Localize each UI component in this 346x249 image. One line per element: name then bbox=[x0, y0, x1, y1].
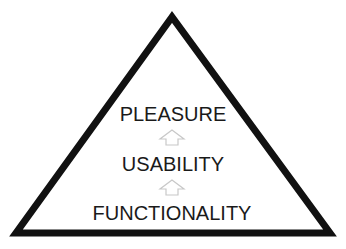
up-arrow-icon bbox=[160, 180, 184, 195]
level-pleasure: PLEASURE bbox=[120, 103, 227, 125]
pyramid-diagram: PLEASURE USABILITY FUNCTIONALITY bbox=[0, 0, 346, 249]
up-arrow-icon bbox=[160, 130, 184, 145]
level-functionality: FUNCTIONALITY bbox=[93, 202, 252, 224]
pyramid-triangle bbox=[16, 17, 330, 233]
level-usability: USABILITY bbox=[122, 153, 224, 175]
